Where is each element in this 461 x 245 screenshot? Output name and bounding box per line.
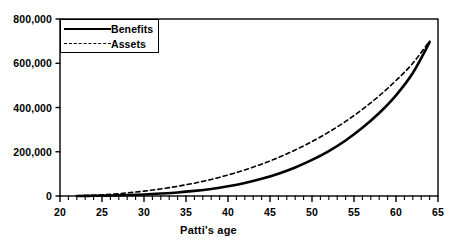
- legend-line-dashed-icon: [64, 39, 111, 49]
- x-axis-tick-label: 30: [129, 206, 159, 218]
- legend-line-solid-icon: [64, 24, 111, 34]
- legend-label-assets: Assets: [111, 38, 146, 50]
- x-axis-tick-label: 40: [213, 206, 243, 218]
- x-axis-tick-label: 45: [255, 206, 285, 218]
- x-axis-title-text: Patti's age: [180, 224, 237, 236]
- x-axis-tick-label: 65: [423, 206, 453, 218]
- x-axis-tick-label: 60: [381, 206, 411, 218]
- chart-container: 0200,000400,000600,000800,000 2025303540…: [0, 0, 461, 245]
- x-axis-tick-label: 25: [87, 206, 117, 218]
- legend-item-benefits: Benefits: [64, 21, 153, 36]
- x-axis-tick-label: 50: [297, 206, 327, 218]
- legend-label-benefits: Benefits: [111, 23, 153, 35]
- chart-legend: Benefits Assets: [60, 19, 159, 53]
- x-axis-tick-label: 20: [45, 206, 75, 218]
- legend-item-assets: Assets: [64, 36, 146, 51]
- x-axis-title: Patti's age: [0, 224, 461, 236]
- x-axis-tick-label: 55: [339, 206, 369, 218]
- x-axis-tick-label: 35: [171, 206, 201, 218]
